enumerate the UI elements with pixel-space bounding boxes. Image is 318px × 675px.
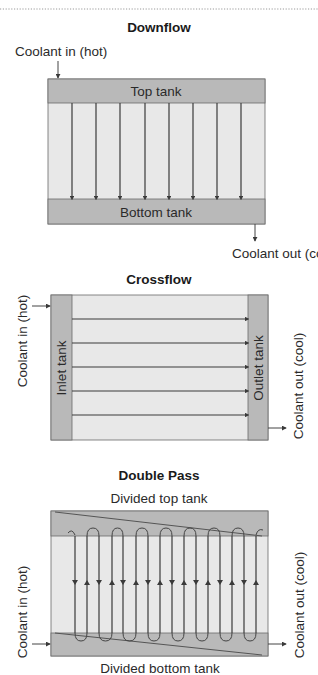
double-pass-top-tank [51,511,268,536]
crossflow-outlet-tank-label: Outlet tank [251,335,266,401]
downflow-top-tank-label: Top tank [130,84,181,99]
double-pass-title: Double Pass [118,468,199,483]
double-pass-top-tank-label: Divided top tank [111,491,208,506]
crossflow-outlet-label: Coolant out (cool) [291,333,306,440]
double-pass-outlet-label: Coolant out (cool) [292,552,307,659]
downflow-title: Downflow [127,20,191,35]
crossflow-diagram: Crossflow Inlet tank Outlet tank Coolant… [15,272,306,440]
downflow-outlet-label: Coolant out (cool) [232,246,318,261]
downflow-bottom-tank-label: Bottom tank [120,205,192,220]
crossflow-inlet-label: Coolant in (hot) [15,295,30,387]
downflow-diagram: Downflow Coolant in (hot) Top tank Botto… [15,20,318,261]
radiator-flow-diagrams: Downflow Coolant in (hot) Top tank Botto… [0,0,318,675]
crossflow-title: Crossflow [126,272,192,287]
crossflow-inlet-tank-label: Inlet tank [54,340,69,395]
double-pass-diagram: Double Pass Divided top tank [15,468,307,675]
double-pass-inlet-label: Coolant in (hot) [15,566,30,658]
downflow-inlet-label: Coolant in (hot) [15,44,107,59]
double-pass-bottom-tank-label: Divided bottom tank [100,661,220,675]
